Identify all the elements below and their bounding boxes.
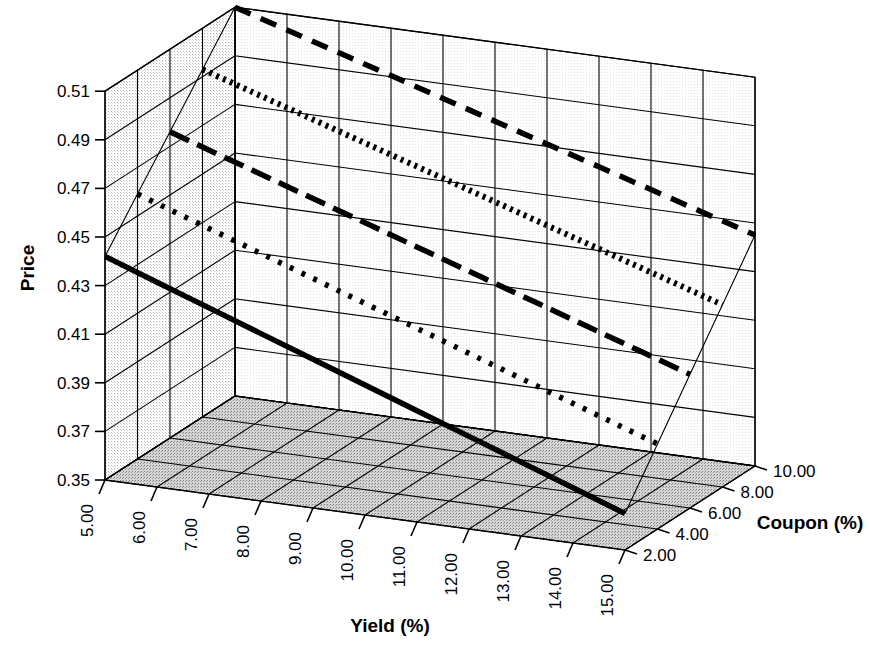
yield-tick-mark [515,536,521,550]
yield-tick-label: 10.00 [338,539,357,582]
price-tick-label: 0.49 [57,131,90,150]
coupon-tick-label: 8.00 [741,483,774,502]
yield-tick-label: 14.00 [546,567,565,610]
coupon-tick-label: 2.00 [643,546,676,565]
yield-tick-mark [99,480,105,494]
yield-tick-label: 6.00 [130,511,149,544]
coupon-tick-label: 10.00 [773,462,816,481]
coupon-tick-label: 4.00 [676,525,709,544]
yield-tick-mark [619,550,625,564]
coupon-axis-title: Coupon (%) [757,512,864,533]
coupon-tick-label: 6.00 [708,504,741,523]
price-tick-label: 0.51 [57,82,90,101]
yield-tick-label: 11.00 [390,546,409,587]
yield-tick-label: 9.00 [286,532,305,565]
yield-tick-mark [255,501,261,515]
price-tick-label: 0.45 [57,228,90,247]
yield-tick-label: 7.00 [182,518,201,551]
yield-tick-mark [463,529,469,543]
yield-tick-mark [411,522,417,536]
yield-tick-mark [307,508,313,522]
yield-axis-title: Yield (%) [350,615,430,636]
price-tick-label: 0.39 [57,374,90,393]
coupon-tick-mark [658,529,670,533]
price-tick-label: 0.43 [57,277,90,296]
price-tick-label: 0.35 [57,471,90,490]
chart-canvas: 0.510.490.470.450.430.410.390.370.355.00… [0,0,870,659]
coupon-tick-mark [625,550,637,554]
yield-tick-mark [151,487,157,501]
yield-tick-label: 12.00 [442,553,461,596]
yield-tick-label: 5.00 [78,504,97,537]
price-axis-title: Price [17,245,38,291]
yield-tick-label: 13.00 [494,560,513,603]
yield-tick-mark [359,515,365,529]
coupon-tick-mark [690,508,702,512]
yield-tick-label: 15.00 [598,574,617,617]
coupon-tick-mark [755,466,767,470]
price-tick-label: 0.41 [57,325,90,344]
yield-tick-mark [203,494,209,508]
yield-tick-label: 8.00 [234,525,253,558]
price-tick-label: 0.37 [57,422,90,441]
surface-plot-svg: 0.510.490.470.450.430.410.390.370.355.00… [0,0,870,659]
price-tick-label: 0.47 [57,179,90,198]
coupon-tick-mark [723,487,735,491]
yield-tick-mark [567,543,573,557]
